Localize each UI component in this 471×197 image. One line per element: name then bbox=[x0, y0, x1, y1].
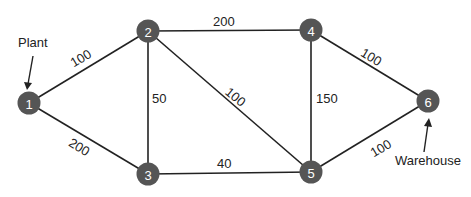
node-5: 5 bbox=[300, 161, 323, 184]
node-label: 2 bbox=[144, 25, 151, 40]
node-label: 6 bbox=[424, 95, 431, 110]
plant-label: Plant bbox=[18, 35, 48, 50]
weight-2-4: 200 bbox=[213, 14, 235, 29]
edge-1-3 bbox=[29, 103, 148, 174]
weight-2-3: 50 bbox=[152, 91, 166, 106]
plant-annotation: Plant bbox=[18, 35, 48, 90]
weight-4-5: 150 bbox=[316, 91, 338, 106]
diagram-canvas: 100 200 50 200 100 40 150 100 100 123456… bbox=[0, 0, 471, 197]
node-label: 4 bbox=[307, 24, 314, 39]
node-3: 3 bbox=[137, 163, 160, 186]
node-label: 5 bbox=[307, 166, 314, 181]
warehouse-annotation: Warehouse bbox=[395, 118, 461, 168]
node-6: 6 bbox=[417, 90, 440, 113]
node-2: 2 bbox=[137, 20, 160, 43]
node-4: 4 bbox=[300, 19, 323, 42]
plant-arrow-icon bbox=[28, 56, 33, 84]
weight-4-6: 100 bbox=[358, 45, 384, 69]
node-label: 3 bbox=[144, 168, 151, 183]
weight-3-5: 40 bbox=[217, 156, 231, 171]
warehouse-arrow-icon bbox=[424, 124, 428, 152]
edge-2-4 bbox=[148, 30, 311, 31]
node-1: 1 bbox=[18, 92, 41, 115]
edge-weight-labels: 100 200 50 200 100 40 150 100 100 bbox=[66, 14, 394, 171]
plant-arrowhead-icon bbox=[24, 82, 32, 90]
node-label: 1 bbox=[25, 97, 32, 112]
warehouse-label: Warehouse bbox=[395, 153, 461, 168]
weight-2-5: 100 bbox=[222, 84, 248, 109]
warehouse-arrowhead-icon bbox=[424, 118, 432, 127]
network-diagram: 100 200 50 200 100 40 150 100 100 123456… bbox=[0, 0, 471, 197]
weight-5-6: 100 bbox=[368, 136, 394, 160]
edge-3-5 bbox=[148, 172, 311, 174]
